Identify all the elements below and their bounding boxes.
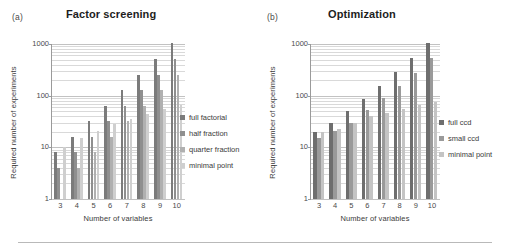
plot-area-a: 1101001000345678910 bbox=[51, 44, 185, 200]
gridline bbox=[311, 52, 440, 53]
legend-swatch-icon bbox=[180, 147, 185, 152]
y-axis-tick-label: 1000 bbox=[291, 40, 308, 48]
x-axis-tick-label: 4 bbox=[333, 202, 337, 210]
bar bbox=[434, 102, 437, 199]
y-axis-tick-label: 1000 bbox=[32, 40, 49, 48]
legend-item-label: full ccd bbox=[448, 119, 471, 127]
x-axis-tick-label: 8 bbox=[398, 202, 402, 210]
gridline bbox=[52, 55, 185, 56]
y-axis-tick-label: 10 bbox=[300, 144, 308, 152]
legend-item: minimal point bbox=[180, 161, 239, 170]
legend-item: full factorial bbox=[180, 113, 239, 122]
gridline bbox=[52, 96, 185, 97]
gridline bbox=[52, 80, 185, 81]
gridline bbox=[52, 98, 185, 99]
y-axis-tick-mark bbox=[49, 96, 52, 97]
x-axis-tick-label: 7 bbox=[381, 202, 385, 210]
x-axis-tick-label: 3 bbox=[317, 202, 321, 210]
gridline bbox=[52, 65, 185, 66]
bar bbox=[57, 168, 60, 199]
gridline bbox=[52, 101, 185, 102]
legend-swatch-icon bbox=[180, 131, 185, 136]
y-axis-title-a: Required number of experiments bbox=[9, 48, 18, 198]
panel-label-a: (a) bbox=[12, 12, 23, 22]
chart-title-b: Optimization bbox=[328, 8, 396, 20]
x-axis-tick-label: 9 bbox=[158, 202, 162, 210]
panel-label-b: (b) bbox=[267, 12, 278, 22]
legend-a: full factorialhalf fractionquarter fract… bbox=[180, 113, 239, 177]
x-axis-tick-label: 8 bbox=[141, 202, 145, 210]
gridline bbox=[311, 46, 440, 47]
legend-swatch-icon bbox=[439, 136, 444, 141]
x-axis-tick-label: 9 bbox=[414, 202, 418, 210]
legend-swatch-icon bbox=[180, 115, 185, 120]
bar bbox=[80, 138, 83, 199]
gridline bbox=[311, 80, 440, 81]
panel-optimization: (b) Optimization Required number of expe… bbox=[255, 0, 510, 249]
gridline bbox=[311, 65, 440, 66]
x-axis-tick-label: 6 bbox=[108, 202, 112, 210]
y-axis-tick-label: 10 bbox=[41, 144, 49, 152]
legend-item: small ccd bbox=[439, 134, 492, 143]
bar bbox=[321, 132, 324, 199]
chart-title-a: Factor screening bbox=[66, 8, 156, 20]
x-axis-title-a: Number of variables bbox=[51, 214, 185, 223]
legend-item: full ccd bbox=[439, 118, 492, 127]
legend-item-label: small ccd bbox=[448, 135, 479, 143]
plot-area-b: 1101001000345678910 bbox=[310, 44, 440, 200]
figure-bottom-rule bbox=[18, 242, 492, 243]
bar bbox=[418, 105, 421, 199]
x-axis-tick-label: 7 bbox=[125, 202, 129, 210]
y-axis-tick-mark bbox=[49, 199, 52, 200]
y-axis-tick-mark bbox=[49, 44, 52, 45]
legend-swatch-icon bbox=[180, 163, 185, 168]
x-axis-tick-label: 10 bbox=[173, 202, 181, 210]
y-axis-tick-label: 100 bbox=[295, 92, 308, 100]
gridline bbox=[311, 101, 440, 102]
panel-factor-screening: (a) Factor screening Required number of … bbox=[0, 0, 255, 249]
bar bbox=[113, 124, 116, 199]
y-axis-tick-mark bbox=[308, 147, 311, 148]
y-axis-title-b: Required number of experiments bbox=[268, 48, 277, 198]
x-axis-tick-label: 3 bbox=[58, 202, 62, 210]
bar bbox=[130, 119, 133, 199]
y-axis-tick-mark bbox=[308, 96, 311, 97]
legend-item-label: minimal point bbox=[448, 151, 492, 159]
gridline bbox=[311, 44, 440, 45]
legend-item: minimal point bbox=[439, 150, 492, 159]
bar bbox=[63, 147, 66, 199]
legend-item: half fraction bbox=[180, 129, 239, 138]
gridline bbox=[52, 60, 185, 61]
gridline bbox=[311, 49, 440, 50]
x-axis-tick-label: 5 bbox=[349, 202, 353, 210]
gridline bbox=[52, 49, 185, 50]
legend-item-label: half fraction bbox=[189, 130, 228, 138]
gridline bbox=[311, 199, 440, 200]
gridline bbox=[311, 96, 440, 97]
legend-item: quarter fraction bbox=[180, 145, 239, 154]
x-axis-tick-label: 10 bbox=[428, 202, 436, 210]
x-axis-tick-label: 4 bbox=[75, 202, 79, 210]
bar bbox=[146, 114, 149, 199]
gridline bbox=[52, 104, 185, 105]
bar bbox=[337, 129, 340, 199]
y-axis-tick-label: 100 bbox=[36, 92, 49, 100]
legend-swatch-icon bbox=[439, 152, 444, 157]
gridline bbox=[311, 55, 440, 56]
bar bbox=[97, 131, 100, 199]
x-axis-title-b: Number of variables bbox=[310, 214, 440, 223]
bar bbox=[163, 109, 166, 199]
y-axis-tick-mark bbox=[49, 147, 52, 148]
gridline bbox=[311, 71, 440, 72]
bar bbox=[369, 116, 372, 199]
gridline bbox=[52, 71, 185, 72]
gridline bbox=[311, 60, 440, 61]
gridline bbox=[52, 107, 185, 108]
legend-item-label: quarter fraction bbox=[189, 146, 239, 154]
gridline bbox=[52, 52, 185, 53]
gridline bbox=[311, 98, 440, 99]
legend-b: full ccdsmall ccdminimal point bbox=[439, 118, 492, 166]
bar bbox=[402, 109, 405, 199]
bar bbox=[353, 123, 356, 199]
x-axis-tick-label: 5 bbox=[91, 202, 95, 210]
